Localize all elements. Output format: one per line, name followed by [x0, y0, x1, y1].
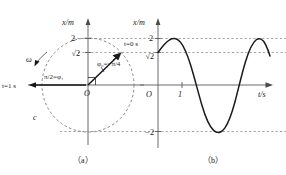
physics-figure-page: x/m 2 √2 O ω c φ₀=−π/4 π/2=φ₁ t=1 s t=0 …: [0, 0, 286, 175]
panel-b-vertical-axis-arrowhead: [156, 18, 161, 25]
panel-a-vertical-axis-label: x/m: [61, 18, 74, 27]
phasor-vector-t1-arrowhead: [29, 82, 37, 88]
panel-a-sqrt2-tick-label: √2: [71, 49, 80, 58]
panel-a-group: x/m 2 √2 O ω c φ₀=−π/4 π/2=φ₁ t=1 s t=0 …: [2, 18, 286, 165]
panel-b-time-one-label: 1: [178, 90, 182, 99]
panel-b-amplitude-positive-label: 2: [149, 34, 153, 43]
time-one-second-label: t=1 s: [2, 82, 16, 90]
panel-b-sqrt2-label: √2: [145, 52, 154, 61]
figure-canvas: x/m 2 √2 O ω c φ₀=−π/4 π/2=φ₁ t=1 s t=0 …: [0, 0, 286, 175]
omega-rotation-arrowhead: [35, 60, 40, 67]
panel-a-caption: （a）: [73, 156, 93, 165]
panel-b-horizontal-axis-label: t/s: [258, 90, 266, 99]
circle-label-c: c: [33, 113, 37, 122]
panel-b-vertical-axis-label: x/m: [132, 18, 145, 27]
panel-b-amplitude-negative-label: −2: [145, 128, 154, 137]
panel-b-origin-label: O: [146, 90, 152, 99]
initial-phase-label: φ₀=−π/4: [97, 60, 121, 68]
panel-b-horizontal-axis-arrowhead: [266, 82, 274, 87]
omega-label: ω: [26, 55, 32, 64]
panel-a-amplitude-tick-label: 2: [71, 34, 75, 43]
time-zero-label: t=0 s: [124, 40, 138, 48]
panel-a-vertical-axis-arrowhead: [86, 18, 91, 25]
panel-a-origin-label: O: [84, 89, 90, 98]
phase-one-label: π/2=φ₁: [44, 73, 63, 81]
panel-b-group: x/m 2 √2 −2 1 O t/s （b）: [132, 18, 273, 165]
panel-b-caption: （b）: [203, 156, 223, 165]
